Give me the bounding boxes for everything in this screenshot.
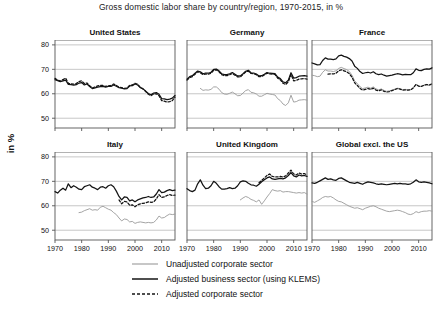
- y-tick-label: 60: [41, 201, 49, 210]
- series-line: [55, 78, 175, 102]
- legend-item: Adjusted corporate sector: [132, 286, 320, 301]
- x-tick-label: 2000: [127, 244, 143, 253]
- panel-france: [286, 40, 440, 144]
- plot-frame: [312, 40, 432, 128]
- y-tick-label: 80: [41, 40, 49, 49]
- y-tick-label: 80: [41, 152, 49, 161]
- x-tick-label: 1970: [304, 244, 320, 253]
- legend-swatch: [132, 274, 158, 284]
- x-tick-label: 2000: [259, 244, 275, 253]
- panel-title-italy: Italy: [55, 140, 175, 149]
- x-tick-label: 1990: [100, 244, 116, 253]
- y-tick-label: 60: [41, 89, 49, 98]
- series-line: [55, 184, 175, 202]
- panel-title-france: France: [312, 28, 432, 37]
- plot-frame: [312, 152, 432, 240]
- legend-item: Unadjusted corporate sector: [132, 256, 320, 271]
- panel-title-germany: Germany: [187, 28, 307, 37]
- x-tick-label: 1990: [232, 244, 248, 253]
- panel-title-global-excl-the-us: Global excl. the US: [312, 140, 432, 149]
- x-tick-label: 1990: [357, 244, 373, 253]
- panel-title-united-states: United States: [55, 28, 175, 37]
- y-tick-label: 50: [41, 114, 49, 123]
- x-tick-label: 1980: [206, 244, 222, 253]
- series-line: [55, 80, 175, 100]
- chart-legend: Unadjusted corporate sectorAdjusted busi…: [132, 256, 320, 301]
- panel-italy: 5060708019701980199020002010: [29, 152, 183, 256]
- legend-label: Adjusted corporate sector: [166, 289, 263, 299]
- panel-title-united-kingdom: United Kingdom: [187, 140, 307, 149]
- x-tick-label: 2000: [384, 244, 400, 253]
- x-tick-label: 2010: [411, 244, 427, 253]
- series-line: [328, 70, 432, 92]
- legend-swatch: [132, 289, 158, 299]
- panel-global-excl-the-us: 19701980199020002010: [286, 152, 440, 256]
- panel-united-states: 50607080: [29, 40, 183, 144]
- plot-frame: [55, 152, 175, 240]
- page-title: Gross domestic labor share by country/re…: [0, 2, 442, 12]
- legend-swatch: [132, 259, 158, 269]
- x-tick-label: 1980: [331, 244, 347, 253]
- legend-item: Adjusted business sector (using KLEMS): [132, 271, 320, 286]
- y-tick-label: 50: [41, 226, 49, 235]
- y-axis-label: in %: [5, 118, 16, 170]
- x-tick-label: 1970: [179, 244, 195, 253]
- x-tick-label: 1980: [74, 244, 90, 253]
- y-tick-label: 70: [41, 177, 49, 186]
- legend-label: Adjusted business sector (using KLEMS): [166, 274, 320, 284]
- y-tick-label: 70: [41, 65, 49, 74]
- x-tick-label: 1970: [47, 244, 63, 253]
- legend-label: Unadjusted corporate sector: [166, 259, 273, 269]
- series-line: [312, 55, 432, 76]
